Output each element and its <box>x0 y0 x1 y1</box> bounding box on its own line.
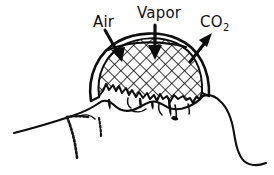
diagram-svg: Air Vapor CO 2 <box>0 0 274 175</box>
figure-canvas: Air Vapor CO 2 <box>0 0 274 175</box>
scribble-marks <box>67 115 101 159</box>
air-label: Air <box>93 13 115 31</box>
co2-label-base: CO <box>200 13 223 31</box>
vapor-label: Vapor <box>137 4 182 22</box>
co2-label-subscript: 2 <box>223 22 229 33</box>
